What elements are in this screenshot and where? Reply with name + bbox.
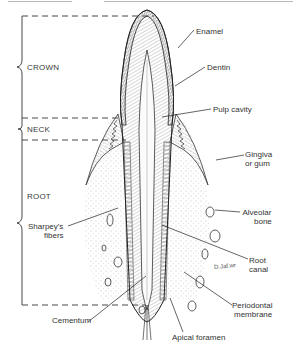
label-sharpeys-line2: fibers: [28, 231, 64, 240]
artist-signature: D.Jaf.wr: [214, 261, 237, 272]
region-label-neck: NECK: [27, 125, 50, 134]
label-sharpeys-fibers: Sharpey's fibers: [28, 222, 64, 240]
label-periodontal-membrane: Periodontal membrane: [232, 301, 272, 319]
label-alveolar-line1: Alveolar: [242, 208, 272, 217]
label-periodontal-line1: Periodontal: [232, 301, 272, 310]
region-label-crown: CROWN: [27, 63, 59, 72]
label-root-canal-line1: Root: [249, 256, 268, 265]
label-root-canal-line2: canal: [249, 265, 268, 274]
label-root-canal: Root canal: [249, 256, 268, 274]
label-gingiva-line2: or gum: [245, 159, 272, 168]
label-cementum: Cementum: [52, 316, 91, 325]
region-braces: [17, 16, 22, 305]
label-sharpeys-line1: Sharpey's: [28, 222, 64, 231]
label-gingiva-line1: Gingiva: [245, 150, 272, 159]
label-pulp-cavity: Pulp cavity: [213, 105, 252, 114]
region-label-root: ROOT: [27, 192, 51, 201]
label-gingiva: Gingiva or gum: [245, 150, 272, 168]
label-alveolar-bone: Alveolar bone: [242, 208, 272, 226]
label-apical-foramen: Apical foramen: [172, 333, 225, 342]
label-periodontal-line2: membrane: [232, 310, 272, 319]
label-alveolar-line2: bone: [242, 217, 272, 226]
label-dentin: Dentin: [207, 63, 230, 72]
label-enamel: Enamel: [196, 27, 223, 36]
